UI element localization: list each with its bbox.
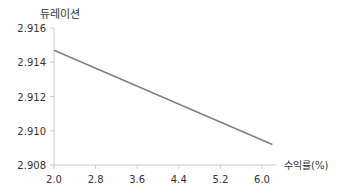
x-tick-label: 3.6 [129, 174, 145, 185]
y-axis-title: 듀레이션 [40, 8, 80, 21]
y-tick-label: 2.914 [17, 57, 46, 68]
y-tick-label: 2.910 [17, 126, 46, 137]
y-tick-label: 2.908 [17, 160, 46, 171]
x-axis-title: 수익률(%) [284, 160, 328, 171]
x-tick-label: 4.4 [171, 174, 187, 185]
y-tick-label: 2.912 [17, 92, 46, 103]
x-tick-label: 2.0 [46, 174, 62, 185]
x-tick-label: 2.8 [88, 174, 104, 185]
series-line [54, 50, 272, 144]
y-tick-label: 2.916 [17, 23, 46, 34]
line-chart: 2.9082.9102.9122.9142.9162.02.83.64.45.2… [0, 0, 343, 195]
duration-yield-chart: 2.9082.9102.9122.9142.9162.02.83.64.45.2… [0, 0, 343, 195]
x-tick-label: 5.2 [212, 174, 228, 185]
x-tick-label: 6.0 [254, 174, 270, 185]
